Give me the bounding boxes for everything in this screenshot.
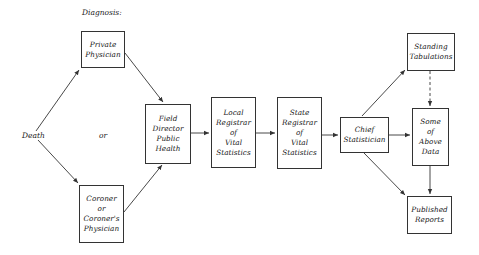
node-chief-statistician: Chief Statistician (340, 117, 389, 153)
node-local-registrar: Local Registrar of Vital Statistics (211, 97, 256, 168)
node-standing-tabulations: Standing Tabulations (407, 33, 455, 71)
edge-death-coroner (38, 140, 78, 183)
node-state-registrar: State Registrar of Vital Statistics (277, 97, 322, 169)
edge-chief-standing (362, 70, 405, 116)
edge-private-field (125, 53, 163, 102)
edge-death-private (36, 70, 79, 131)
or-label: or (99, 131, 107, 140)
node-coroner: Coroner or Coroner's Physician (79, 185, 124, 243)
flow-diagram: Diagnosis: Death or Private Physician Co… (0, 0, 479, 255)
diagnosis-label: Diagnosis: (82, 8, 122, 17)
edge-chief-published (364, 153, 405, 195)
death-node: Death (22, 131, 45, 140)
node-published-reports: Published Reports (407, 196, 452, 234)
node-some-of-above-data: Some of Above Data (412, 108, 449, 166)
node-private-physician: Private Physician (81, 31, 125, 68)
node-field-director: Field Director Public Health (145, 104, 191, 164)
edge-coroner-field (124, 165, 162, 212)
